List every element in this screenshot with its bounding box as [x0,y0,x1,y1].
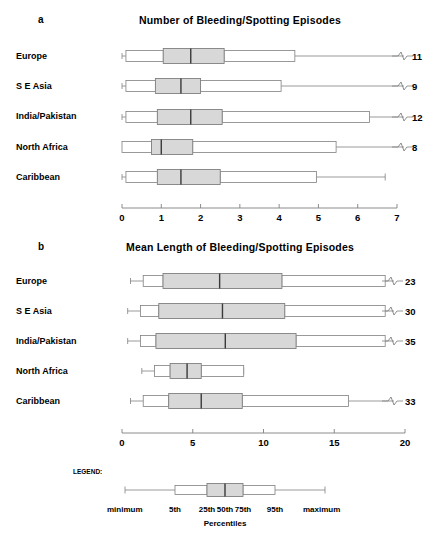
panel-a-box-4 [122,170,385,185]
legend-heading: LEGEND: [73,468,102,475]
panel-a-max-label-2: 12 [412,112,423,123]
panel-a-box-1 [122,79,404,94]
panel-b-box-2 [128,334,394,349]
legend-box-5-25 [175,486,207,495]
panel-b-box-4 [130,394,394,409]
panel-b: b Mean Length of Bleeding/Spotting Episo… [0,230,439,455]
panel-a-box-0 [122,49,404,64]
legend-panel: LEGEND:minimummaximum5th25th50th75th95th… [0,455,439,535]
panel-b-box-1 [128,304,394,319]
panel-b-max-label-0: 23 [405,276,416,287]
panel-b-plot: 2330353305101520 [0,230,439,455]
legend-percentile-label-1: 25th [199,505,216,514]
legend-box-75-95 [243,486,275,495]
panel-b-max-label-1: 30 [405,306,416,317]
panel-a-max-label-3: 8 [412,142,417,153]
panel-a-tick-label-0: 0 [119,212,124,223]
panel-b-tick-label-3: 15 [329,437,340,448]
legend-percentile-label-3: 75th [235,505,252,514]
panel-a-tick-label-7: 7 [394,212,399,223]
legend-percentile-label-4: 95th [267,505,284,514]
panel-b-max-label-4: 33 [405,396,416,407]
panel-a-tick-label-4: 4 [276,212,282,223]
panel-b-box-0 [130,274,394,289]
legend-percentile-label-0: 5th [169,505,181,514]
panel-a-tick-label-5: 5 [316,212,322,223]
panel-a-tick-label-6: 6 [355,212,360,223]
legend-percentile-label-2: 50th [217,505,234,514]
panel-a-box-2 [122,110,404,125]
panel-b-box-3 [142,364,244,379]
panel-b-tick-label-0: 0 [119,437,124,448]
panel-a-tick-label-1: 1 [159,212,165,223]
panel-a: a Number of Bleeding/Spotting Episodes E… [0,0,439,230]
panel-b-tick-label-2: 10 [258,437,269,448]
panel-b-tick-label-4: 20 [400,437,411,448]
panel-a-max-label-0: 11 [412,51,423,62]
legend-maximum-label: maximum [303,505,340,514]
panel-a-box-3 [122,140,404,155]
panel-b-max-label-2: 35 [405,336,416,347]
panel-a-max-label-1: 9 [412,81,417,92]
panel-b-tick-label-1: 5 [190,437,196,448]
legend-diagram: LEGEND:minimummaximum5th25th50th75th95th… [0,455,439,535]
panel-a-plot: 11912801234567 [0,0,439,230]
legend-minimum-label: minimum [107,505,143,514]
legend-axis-caption: Percentiles [204,519,247,528]
panel-a-tick-label-3: 3 [237,212,242,223]
panel-a-tick-label-2: 2 [198,212,203,223]
